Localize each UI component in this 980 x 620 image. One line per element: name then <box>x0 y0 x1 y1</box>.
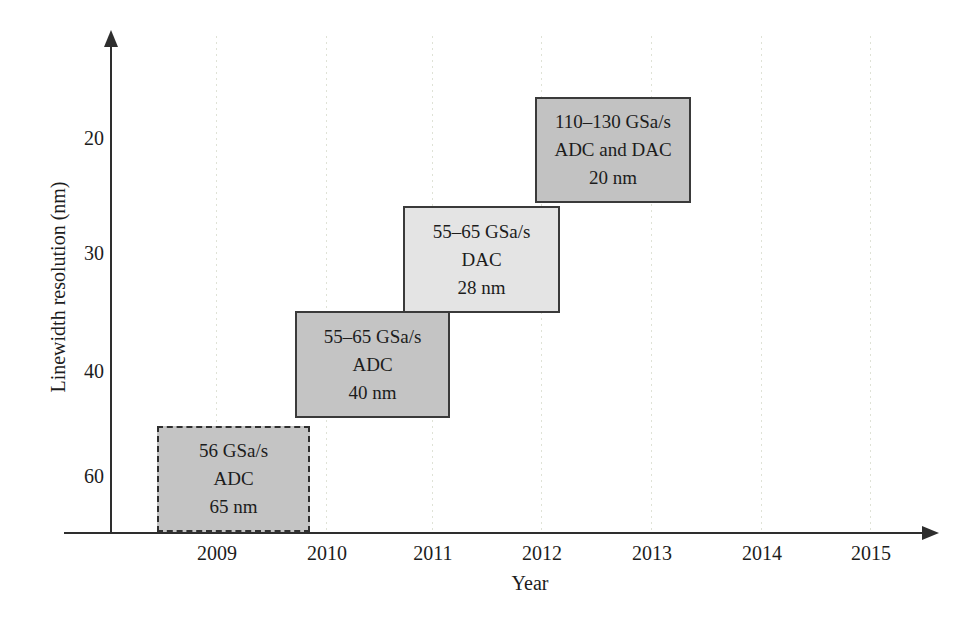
x-axis-title: Year <box>477 572 583 595</box>
y-axis-line <box>110 44 112 533</box>
box-line-node: 65 nm <box>209 493 257 521</box>
box-line-device: ADC <box>213 465 253 493</box>
box-line-device: DAC <box>461 246 501 274</box>
gridline-2015 <box>870 36 871 532</box>
x-tick-2011: 2011 <box>388 541 478 565</box>
box-line-node: 28 nm <box>457 274 505 302</box>
box-line-device: ADC <box>352 351 392 379</box>
gridline-2010 <box>326 36 327 532</box>
box-line-device: ADC and DAC <box>554 136 671 164</box>
x-axis-line <box>64 532 928 534</box>
x-tick-2010: 2010 <box>282 541 372 565</box>
box-line-rate: 55–65 GSa/s <box>324 323 422 351</box>
box-line-node: 40 nm <box>348 379 396 407</box>
box-line-rate: 55–65 GSa/s <box>433 218 531 246</box>
gridline-2014 <box>761 36 762 532</box>
x-tick-2014: 2014 <box>717 541 807 565</box>
roadmap-box-2011-dac-28nm: 55–65 GSa/s DAC 28 nm <box>403 206 560 313</box>
box-line-rate: 110–130 GSa/s <box>555 108 671 136</box>
box-line-node: 20 nm <box>589 164 637 192</box>
y-axis-title: Linewidth resolution (nm) <box>47 181 70 392</box>
x-axis-arrow-icon <box>922 526 939 540</box>
box-line-rate: 56 GSa/s <box>199 437 268 465</box>
x-tick-2013: 2013 <box>607 541 697 565</box>
roadmap-box-2012-adc-dac-20nm: 110–130 GSa/s ADC and DAC 20 nm <box>535 97 691 203</box>
y-tick-20: 20 <box>48 126 104 150</box>
y-axis-arrow-icon <box>104 30 118 47</box>
y-tick-60: 60 <box>48 464 104 488</box>
x-tick-2012: 2012 <box>497 541 587 565</box>
roadmap-box-2009-adc-65nm: 56 GSa/s ADC 65 nm <box>157 426 310 532</box>
roadmap-box-2010-adc-40nm: 55–65 GSa/s ADC 40 nm <box>295 311 450 418</box>
roadmap-chart: 20 30 40 60 2009 2010 2011 2012 2013 201… <box>0 0 980 620</box>
x-tick-2015: 2015 <box>826 541 916 565</box>
x-tick-2009: 2009 <box>172 541 262 565</box>
